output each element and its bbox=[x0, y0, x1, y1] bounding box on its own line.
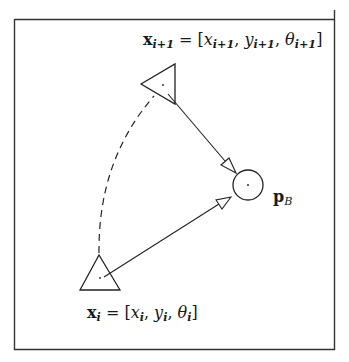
sub: i+1 bbox=[295, 37, 316, 51]
y: y bbox=[154, 303, 163, 322]
sep: , bbox=[234, 30, 244, 49]
sub: i+1 bbox=[213, 37, 234, 51]
target-point-circle bbox=[233, 170, 263, 200]
equals: = [ bbox=[101, 303, 131, 322]
label-target: pB bbox=[273, 187, 292, 208]
sep: , bbox=[167, 303, 177, 322]
label-next-pose: xi+1 = [xi+1, yi+1, θi+1] bbox=[143, 30, 322, 51]
x: x bbox=[131, 303, 140, 322]
sub: B bbox=[284, 195, 292, 208]
theta: θ bbox=[285, 30, 295, 49]
sep: , bbox=[144, 303, 154, 322]
var-x: x bbox=[143, 30, 153, 49]
arrow-next-to-target bbox=[168, 94, 236, 173]
frame bbox=[14, 10, 335, 350]
arrow-current-to-target bbox=[104, 197, 231, 277]
robot-current-center-dot bbox=[99, 277, 101, 279]
var-x: x bbox=[87, 303, 97, 322]
var-p: p bbox=[273, 187, 284, 206]
close-bracket: ] bbox=[316, 30, 322, 49]
trajectory-arc bbox=[99, 96, 154, 253]
sub: i+1 bbox=[253, 37, 274, 51]
equals: = [ bbox=[174, 30, 204, 49]
label-current-pose: xi = [xi, yi, θi] bbox=[87, 303, 198, 324]
robot-current-triangle bbox=[80, 255, 120, 290]
theta: θ bbox=[178, 303, 188, 322]
close-bracket: ] bbox=[191, 303, 197, 322]
robot-next-triangle bbox=[141, 64, 175, 104]
robot-next-center-dot bbox=[162, 84, 164, 86]
sep: , bbox=[275, 30, 285, 49]
x: x bbox=[204, 30, 213, 49]
sub: i+1 bbox=[153, 37, 174, 51]
target-center-dot bbox=[247, 184, 249, 186]
